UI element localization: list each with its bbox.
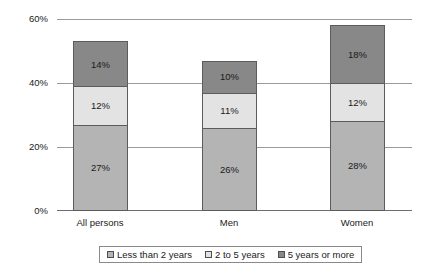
bar-segment-2-to-5-years[interactable]: 12% xyxy=(73,86,128,124)
bar-segment-5-years-or-more[interactable]: 14% xyxy=(73,41,128,86)
bar-segment-value-label: 28% xyxy=(348,161,367,171)
bar-segment-less-than-2-years[interactable]: 27% xyxy=(73,125,128,211)
plot-area: 14% 12% 27% 10% 11% 26% 18% xyxy=(57,19,412,211)
x-axis-tick-label: Men xyxy=(220,217,238,228)
bar-segment-less-than-2-years[interactable]: 28% xyxy=(330,121,385,211)
bar-segment-5-years-or-more[interactable]: 10% xyxy=(202,61,257,93)
bar-segment-value-label: 10% xyxy=(220,72,239,82)
legend-swatch-icon xyxy=(107,251,114,258)
y-axis-tick-label: 40% xyxy=(29,77,48,88)
legend-item-5-years-or-more[interactable]: 5 years or more xyxy=(278,250,355,260)
legend-item-label: Less than 2 years xyxy=(117,250,192,260)
bar-segment-2-to-5-years[interactable]: 11% xyxy=(202,93,257,128)
bar-men[interactable]: 10% 11% 26% xyxy=(202,61,257,211)
legend-swatch-icon xyxy=(278,251,285,258)
legend-swatch-icon xyxy=(205,251,212,258)
y-axis-tick-20: 20% xyxy=(0,142,48,152)
bar-segment-value-label: 26% xyxy=(220,165,239,175)
bar-segment-value-label: 12% xyxy=(91,101,110,111)
chart-legend: Less than 2 years 2 to 5 years 5 years o… xyxy=(99,246,362,263)
x-axis-label-all-persons: All persons xyxy=(40,217,160,228)
bar-all-persons[interactable]: 14% 12% 27% xyxy=(73,41,128,211)
y-axis-tick-0: 0% xyxy=(0,206,48,216)
legend-item-less-than-2-years[interactable]: Less than 2 years xyxy=(107,250,192,260)
bar-segment-5-years-or-more[interactable]: 18% xyxy=(330,25,385,83)
gridline-60 xyxy=(57,19,412,20)
bar-segment-value-label: 11% xyxy=(220,106,238,116)
bar-segment-value-label: 18% xyxy=(348,50,367,60)
y-axis-tick-label: 60% xyxy=(29,13,48,24)
y-axis-tick-label: 0% xyxy=(34,205,48,216)
stacked-bar-chart: 60% 40% 20% 0% 14% 12% 27% xyxy=(0,0,430,273)
legend-item-label: 5 years or more xyxy=(288,250,355,260)
bar-segment-2-to-5-years[interactable]: 12% xyxy=(330,83,385,121)
x-axis-label-men: Men xyxy=(169,217,289,228)
y-axis-tick-label: 20% xyxy=(29,141,48,152)
legend-item-label: 2 to 5 years xyxy=(215,250,265,260)
bar-segment-value-label: 14% xyxy=(91,60,110,70)
bar-segment-value-label: 27% xyxy=(91,163,110,173)
bar-segment-value-label: 12% xyxy=(348,98,367,108)
y-axis-tick-60: 60% xyxy=(0,14,48,24)
bar-segment-less-than-2-years[interactable]: 26% xyxy=(202,128,257,211)
x-axis-label-women: Women xyxy=(297,217,417,228)
y-axis-tick-40: 40% xyxy=(0,78,48,88)
x-axis-tick-label: All persons xyxy=(77,217,124,228)
legend-item-2-to-5-years[interactable]: 2 to 5 years xyxy=(205,250,265,260)
x-axis-tick-label: Women xyxy=(341,217,374,228)
bar-women[interactable]: 18% 12% 28% xyxy=(330,25,385,211)
